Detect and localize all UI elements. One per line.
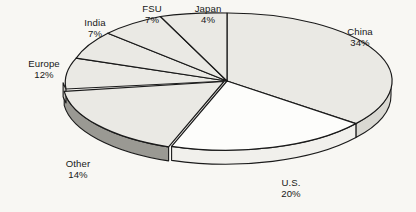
label-other-value: 14%	[54, 169, 102, 180]
label-japan: Japan 4%	[184, 3, 232, 25]
label-us: U.S. 20%	[269, 177, 313, 199]
label-us-value: 20%	[269, 188, 313, 199]
label-fsu-name: FSU	[131, 3, 173, 14]
pie-chart-figure: FSU 7% Japan 4% India 7% China 34% Europ…	[0, 0, 416, 212]
label-china: China 34%	[333, 26, 387, 48]
label-china-value: 34%	[333, 37, 387, 48]
label-europe-value: 12%	[17, 69, 71, 80]
label-india: India 7%	[73, 17, 117, 39]
label-fsu-value: 7%	[131, 14, 173, 25]
label-japan-value: 4%	[184, 14, 232, 25]
label-fsu: FSU 7%	[131, 3, 173, 25]
label-other-name: Other	[54, 158, 102, 169]
label-japan-name: Japan	[184, 3, 232, 14]
label-europe: Europe 12%	[17, 58, 71, 80]
label-europe-name: Europe	[17, 58, 71, 69]
label-india-name: India	[73, 17, 117, 28]
label-other: Other 14%	[54, 158, 102, 180]
label-us-name: U.S.	[269, 177, 313, 188]
label-india-value: 7%	[73, 28, 117, 39]
label-china-name: China	[333, 26, 387, 37]
